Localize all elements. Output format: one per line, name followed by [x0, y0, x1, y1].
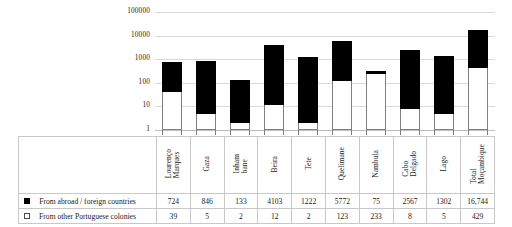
bar-segment-foreign	[332, 41, 352, 81]
category-label: Nambula	[372, 150, 380, 178]
value-cell-colonies: 233	[359, 209, 393, 224]
category-cell: Lourenço Marques	[157, 137, 191, 194]
bar-stack[interactable]	[196, 61, 216, 130]
bar-segment-foreign	[162, 62, 182, 92]
bar-slot	[325, 12, 359, 130]
x-tick-mark	[487, 130, 488, 135]
bar-segment-foreign	[468, 30, 488, 68]
category-label: Inham bane	[233, 154, 249, 173]
x-tick-mark	[468, 130, 469, 135]
bar-stack[interactable]	[468, 30, 488, 130]
y-tick-label: 1	[146, 126, 150, 133]
table-corner-blank	[19, 137, 157, 194]
value-cell-colonies: 39	[157, 209, 191, 224]
bar-stack[interactable]	[162, 62, 182, 130]
bar-stack[interactable]	[400, 50, 420, 130]
x-tick-mark	[249, 130, 250, 135]
x-tick-mark	[215, 130, 216, 135]
x-tick-mark	[385, 130, 386, 135]
bar-segment-colonies	[162, 92, 182, 130]
bar-segment-foreign	[400, 50, 420, 109]
legend-item-colonies: From other Portuguese colonies	[19, 209, 157, 224]
bar-stack[interactable]	[230, 80, 250, 130]
bar-stack[interactable]	[298, 57, 318, 130]
y-tick-label: 10000	[131, 32, 150, 39]
bar-slot	[189, 12, 223, 130]
bar-segment-colonies	[332, 81, 352, 130]
legend-item-foreign: From abroad / foreign countries	[19, 194, 157, 209]
value-cell-colonies: 123	[325, 209, 359, 224]
x-tick-mark	[283, 130, 284, 135]
tick-slot	[461, 130, 495, 135]
tick-slot	[155, 130, 189, 135]
value-cell-colonies: 429	[461, 209, 495, 224]
category-label-row: Lourenço MarquesGazaInham baneBeiraTeteQ…	[19, 137, 495, 194]
bar-stack[interactable]	[434, 56, 454, 130]
x-tick-mark	[434, 130, 435, 135]
x-tick-mark	[366, 130, 367, 135]
category-label: Gaza	[203, 156, 211, 172]
data-table: Lourenço MarquesGazaInham baneBeiraTeteQ…	[18, 136, 495, 224]
tick-slot	[291, 130, 325, 135]
category-cell: Cabo Delgado	[393, 137, 427, 194]
value-cell-foreign: 75	[359, 194, 393, 209]
bar-slot	[393, 12, 427, 130]
tick-slot	[189, 130, 223, 135]
legend-label-colonies: From other Portuguese colonies	[39, 212, 136, 221]
value-cell-foreign: 2567	[393, 194, 427, 209]
x-tick-mark	[332, 130, 333, 135]
x-axis-tick-marks	[155, 130, 495, 135]
bars-layer	[155, 12, 495, 130]
category-label: Quelimane	[338, 147, 346, 180]
bar-segment-colonies	[366, 74, 386, 130]
bar-segment-colonies	[434, 114, 454, 130]
bar-slot	[155, 12, 189, 130]
x-tick-mark	[181, 130, 182, 135]
x-tick-mark	[264, 130, 265, 135]
bar-segment-colonies	[400, 109, 420, 130]
bar-segment-colonies	[196, 114, 216, 130]
value-cell-foreign: 16,744	[461, 194, 495, 209]
bar-slot	[427, 12, 461, 130]
table-row-foreign: From abroad / foreign countries 72484613…	[19, 194, 495, 209]
value-cell-colonies: 2	[224, 209, 258, 224]
bar-segment-colonies	[468, 68, 488, 130]
value-cell-foreign: 5772	[325, 194, 359, 209]
bar-stack[interactable]	[366, 71, 386, 130]
legend-label-foreign: From abroad / foreign countries	[39, 197, 136, 206]
value-cell-colonies: 8	[393, 209, 427, 224]
x-tick-mark	[230, 130, 231, 135]
bar-slot	[257, 12, 291, 130]
bar-slot	[291, 12, 325, 130]
category-cell: Beira	[258, 137, 292, 194]
bar-segment-colonies	[230, 123, 250, 130]
bar-stack[interactable]	[332, 41, 352, 130]
bar-segment-foreign	[196, 61, 216, 114]
x-tick-mark	[351, 130, 352, 135]
bar-stack[interactable]	[264, 45, 284, 130]
bar-slot	[223, 12, 257, 130]
category-label: Lago	[440, 156, 448, 172]
bar-segment-foreign	[264, 45, 284, 105]
x-tick-mark	[419, 130, 420, 135]
tick-slot	[223, 130, 257, 135]
category-cell: Quelimane	[325, 137, 359, 194]
x-tick-mark	[453, 130, 454, 135]
x-tick-mark	[196, 130, 197, 135]
category-cell: Tete	[292, 137, 326, 194]
category-label: Tete	[305, 157, 313, 170]
value-cell-foreign: 1302	[427, 194, 461, 209]
value-cell-colonies: 12	[258, 209, 292, 224]
value-cell-foreign: 724	[157, 194, 191, 209]
category-label: Cabo Delgado	[402, 151, 418, 177]
tick-slot	[393, 130, 427, 135]
bar-slot	[359, 12, 393, 130]
open-square-icon	[24, 213, 30, 219]
y-tick-label: 1000	[135, 56, 150, 63]
category-label: Beira	[271, 156, 279, 173]
value-cell-colonies: 2	[292, 209, 326, 224]
y-tick-label: 100000	[127, 8, 150, 15]
x-tick-mark	[317, 130, 318, 135]
category-cell: Nambula	[359, 137, 393, 194]
category-cell: Inham bane	[224, 137, 258, 194]
